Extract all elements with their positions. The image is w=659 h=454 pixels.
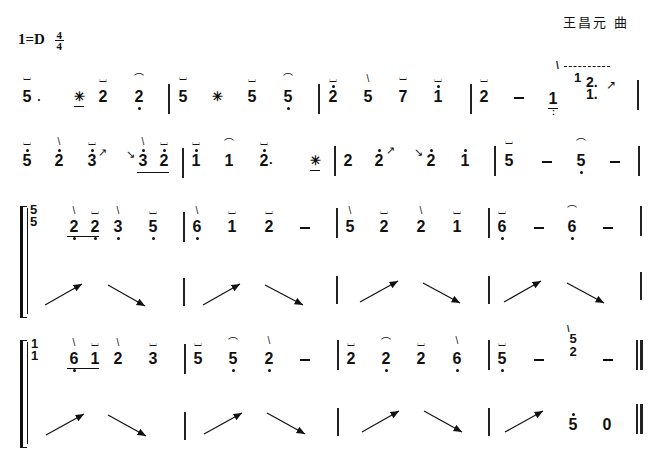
strum-arrows <box>0 0 659 454</box>
strum-up-icon <box>45 284 82 305</box>
